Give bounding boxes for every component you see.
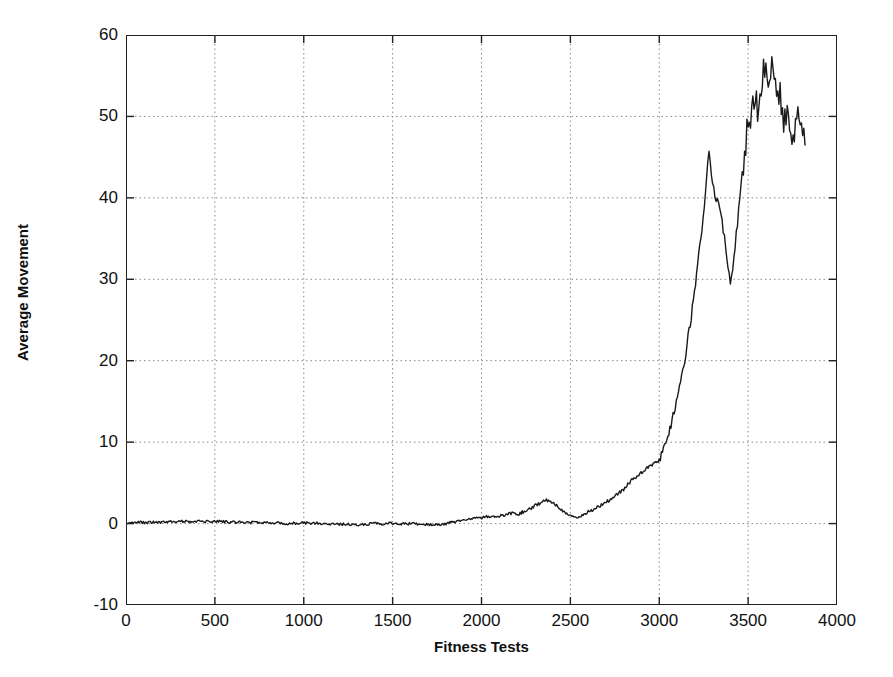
x-tick-label: 1500	[358, 612, 428, 629]
chart-plot-svg	[126, 35, 837, 605]
y-tick-label: 50	[60, 107, 118, 124]
y-tick-label: 60	[60, 26, 118, 43]
x-tick-label: 3500	[713, 612, 783, 629]
y-axis-title: Average Movement	[14, 193, 31, 393]
y-axis-tick-labels: -100102030405060	[56, 35, 118, 605]
data-series-line	[126, 57, 805, 526]
y-tick-label: 40	[60, 189, 118, 206]
x-tick-label: 1000	[269, 612, 339, 629]
y-tick-label: 20	[60, 352, 118, 369]
x-tick-label: 500	[180, 612, 250, 629]
x-axis-title: Fitness Tests	[126, 638, 837, 655]
data-series-group	[126, 57, 805, 526]
y-tick-label: 0	[60, 515, 118, 532]
x-axis-tick-labels: 05001000150020002500300035004000	[126, 612, 837, 636]
chart-figure: -100102030405060 05001000150020002500300…	[0, 0, 893, 677]
x-tick-label: 2000	[447, 612, 517, 629]
y-tick-label: 10	[60, 433, 118, 450]
x-tick-label: 2500	[535, 612, 605, 629]
y-tick-label: -10	[60, 596, 118, 613]
y-tick-label: 30	[60, 270, 118, 287]
x-tick-label: 4000	[802, 612, 872, 629]
x-tick-label: 3000	[624, 612, 694, 629]
x-tick-label: 0	[91, 612, 161, 629]
